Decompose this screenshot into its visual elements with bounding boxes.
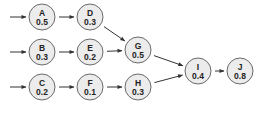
- node-d: D0.3: [77, 4, 103, 30]
- node-i: I0.4: [185, 58, 211, 84]
- edge-e-g: [107, 51, 122, 52]
- node-value: 0.5: [36, 17, 48, 27]
- node-a: A0.5: [29, 4, 55, 30]
- edge-h-i: [154, 75, 182, 82]
- node-value: 0.4: [192, 71, 204, 81]
- network-diagram: A0.5D0.3B0.3E0.2G0.5C0.2F0.1H0.3I0.4J0.8: [0, 0, 257, 114]
- node-value: 0.2: [84, 52, 96, 62]
- node-value: 0.3: [36, 52, 48, 62]
- node-value: 0.2: [36, 87, 48, 97]
- node-h: H0.3: [125, 74, 151, 100]
- node-f: F0.1: [77, 74, 103, 100]
- node-e: E0.2: [77, 39, 103, 65]
- node-value: 0.3: [84, 17, 96, 27]
- node-j: J0.8: [227, 58, 253, 84]
- edge-d-g: [104, 27, 125, 41]
- node-value: 0.8: [234, 71, 246, 81]
- node-g: G0.5: [125, 37, 151, 63]
- node-b: B0.3: [29, 39, 55, 65]
- edge-g-i: [154, 56, 183, 66]
- node-value: 0.3: [132, 87, 144, 97]
- node-value: 0.5: [132, 50, 144, 60]
- node-c: C0.2: [29, 74, 55, 100]
- node-value: 0.1: [84, 87, 96, 97]
